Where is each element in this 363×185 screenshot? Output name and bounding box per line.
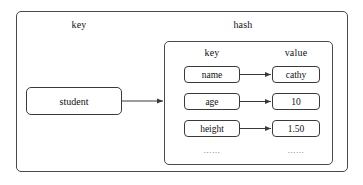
value-box-height: 1.50	[272, 120, 320, 137]
node-student: student	[26, 87, 122, 115]
key-box-height: height	[184, 120, 240, 137]
key-box-name: name	[184, 66, 240, 83]
value-box-name: cathy	[272, 66, 320, 83]
value-box-age: 10	[272, 93, 320, 110]
column-header-value: value	[268, 47, 324, 58]
label-key-outer: key	[51, 19, 107, 30]
column-header-key: key	[184, 47, 240, 58]
ellipsis-key-column: ……	[184, 146, 240, 155]
label-hash: hash	[215, 19, 271, 30]
diagram-canvas: key hash key value student name age heig…	[0, 0, 363, 185]
key-box-age: age	[184, 93, 240, 110]
ellipsis-value-column: ……	[272, 146, 320, 155]
